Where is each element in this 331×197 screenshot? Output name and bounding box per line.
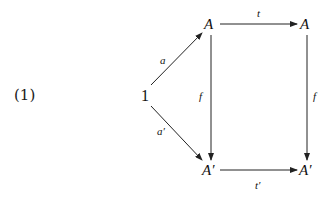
commutative-diagram: 1 A A A′ A′ a a′ t t′ f f <box>0 0 331 197</box>
label-t-prime: t′ <box>255 179 261 191</box>
label-a-prime: a′ <box>157 125 166 137</box>
node-top-left: A <box>203 16 214 32</box>
label-t: t <box>257 7 261 19</box>
node-bottom-left: A′ <box>201 162 215 178</box>
label-f-right: f <box>313 90 318 102</box>
arrow-a <box>151 33 202 85</box>
node-bottom-right: A′ <box>298 162 312 178</box>
node-top-right: A <box>299 16 310 32</box>
label-f-left: f <box>199 90 204 102</box>
label-a: a <box>160 54 166 66</box>
node-one: 1 <box>141 87 149 104</box>
